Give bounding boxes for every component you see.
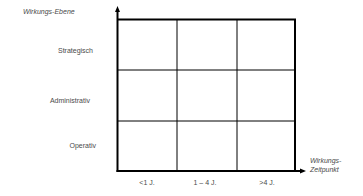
x-category-1-4-years: 1 – 4 J. bbox=[175, 179, 235, 187]
y-category-administrativ: Administrativ bbox=[10, 97, 90, 105]
x-category-lt-1-year: <1 J. bbox=[117, 179, 177, 187]
x-axis-title-line2: Zeitpunkt bbox=[310, 166, 339, 174]
x-category-gt-4-years: >4 J. bbox=[237, 179, 297, 187]
y-axis-arrow-icon bbox=[115, 6, 120, 12]
y-category-operativ: Operativ bbox=[16, 142, 96, 150]
y-category-strategisch: Strategisch bbox=[13, 47, 93, 55]
matrix-diagram: Wirkungs-Ebene Strategisch Administrativ… bbox=[0, 0, 363, 196]
x-axis-arrow-icon bbox=[300, 169, 306, 174]
y-axis-title: Wirkungs-Ebene bbox=[23, 8, 75, 16]
x-axis-title-line1: Wirkungs- bbox=[310, 157, 341, 165]
